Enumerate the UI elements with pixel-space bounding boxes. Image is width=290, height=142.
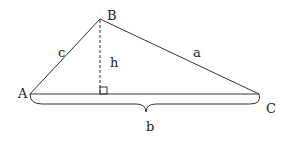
side-a xyxy=(100,19,259,94)
vertex-label-b: B xyxy=(107,8,117,23)
vertex-label-a: A xyxy=(17,86,28,101)
side-label-a: a xyxy=(193,45,201,60)
right-angle-marker xyxy=(100,87,107,94)
brace-b xyxy=(30,94,260,112)
triangle-diagram: A B C c a b h xyxy=(0,0,290,142)
side-label-c: c xyxy=(58,45,65,60)
vertex-label-c: C xyxy=(266,101,276,116)
side-label-b: b xyxy=(146,119,154,134)
altitude-label-h: h xyxy=(110,55,119,70)
